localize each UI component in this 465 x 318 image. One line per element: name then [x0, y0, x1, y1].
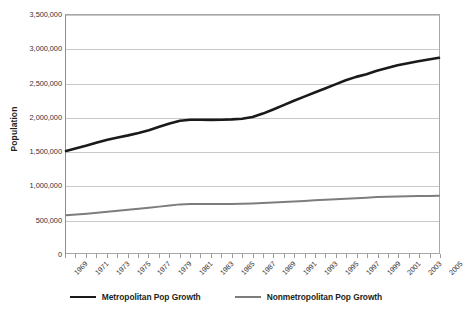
x-axis-tick: [138, 254, 139, 258]
x-axis-tick-label: 1987: [260, 259, 277, 276]
x-axis-tick: [263, 254, 264, 258]
x-axis-tick: [305, 254, 306, 258]
y-axis-tick-label: 3,500,000: [30, 10, 62, 19]
x-axis-tick: [65, 254, 66, 258]
x-axis-tick: [128, 254, 129, 258]
y-axis-tick-label: 500,000: [36, 215, 62, 224]
x-axis-tick-label: 2001: [405, 259, 422, 276]
x-axis-tick: [419, 254, 420, 258]
x-axis-tick-label: 1997: [364, 259, 381, 276]
x-axis-tick: [294, 254, 295, 258]
x-axis-tick-label: 2003: [426, 259, 443, 276]
x-axis-tick-labels: 1969197119731975197719791981198319851987…: [65, 258, 440, 288]
x-axis-tick: [107, 254, 108, 258]
x-axis-tick-label: 1971: [93, 259, 110, 276]
x-axis-tick: [357, 254, 358, 258]
x-axis-tick: [86, 254, 87, 258]
x-axis-tick: [221, 254, 222, 258]
series-lines: [66, 15, 439, 253]
x-axis-tick: [367, 254, 368, 258]
plot-inner: [66, 15, 439, 253]
x-axis-tick-label: 1993: [322, 259, 339, 276]
x-axis-tick: [211, 254, 212, 258]
x-axis-tick: [180, 254, 181, 258]
plot-area: [65, 14, 440, 254]
x-axis-tick: [336, 254, 337, 258]
legend-label-metropolitan: Metropolitan Pop Growth: [102, 292, 201, 302]
x-axis-tick: [409, 254, 410, 258]
x-axis-tick-label: 2005: [447, 259, 464, 276]
x-axis-tick-label: 1999: [385, 259, 402, 276]
nonmetro-line-swatch-icon: [235, 296, 261, 298]
x-axis-tick-label: 1991: [301, 259, 318, 276]
legend-item-metropolitan[interactable]: Metropolitan Pop Growth: [70, 292, 201, 302]
x-axis-tick: [346, 254, 347, 258]
x-axis-tick: [96, 254, 97, 258]
x-axis-tick: [232, 254, 233, 258]
metro-line-swatch-icon: [70, 296, 96, 298]
x-axis-tick-label: 1969: [72, 259, 89, 276]
y-axis-tick-label: 1,000,000: [30, 181, 62, 190]
x-axis-tick: [315, 254, 316, 258]
x-axis-tick: [398, 254, 399, 258]
x-axis-tick: [284, 254, 285, 258]
x-axis-tick-label: 1983: [218, 259, 235, 276]
x-axis-tick-label: 1977: [155, 259, 172, 276]
legend-item-nonmetropolitan[interactable]: Nonmetropolitan Pop Growth: [235, 292, 382, 302]
x-axis-tick-label: 1973: [114, 259, 131, 276]
x-axis-tick-label: 1979: [176, 259, 193, 276]
y-axis-tick-label: 0: [58, 250, 62, 259]
x-axis-tick-label: 1985: [239, 259, 256, 276]
x-axis-tick: [430, 254, 431, 258]
y-axis-title-label: Population: [9, 107, 19, 152]
x-axis-tick: [117, 254, 118, 258]
y-axis-tick-label: 1,500,000: [30, 147, 62, 156]
x-axis-tick: [190, 254, 191, 258]
x-axis-tick: [273, 254, 274, 258]
x-axis-tick: [388, 254, 389, 258]
x-axis-tick: [148, 254, 149, 258]
series-line-nonmetropolitan: [66, 196, 439, 216]
x-axis-tick: [325, 254, 326, 258]
x-axis-tick: [159, 254, 160, 258]
y-axis-tick-label: 2,000,000: [30, 112, 62, 121]
x-axis-tick: [440, 254, 441, 258]
x-axis-tick-label: 1975: [135, 259, 152, 276]
chart-legend: Metropolitan Pop Growth Nonmetropolitan …: [0, 292, 452, 302]
x-axis-tick-label: 1981: [197, 259, 214, 276]
x-axis-tick: [75, 254, 76, 258]
y-axis-tick-label: 2,500,000: [30, 78, 62, 87]
series-line-metropolitan: [66, 58, 439, 151]
x-axis-tick-label: 1995: [343, 259, 360, 276]
x-axis-tick-label: 1989: [280, 259, 297, 276]
y-axis-tick-labels: 0500,0001,000,0001,500,0002,000,0002,500…: [20, 14, 62, 254]
x-axis-tick: [242, 254, 243, 258]
legend-label-nonmetropolitan: Nonmetropolitan Pop Growth: [267, 292, 382, 302]
y-axis-tick-label: 3,000,000: [30, 44, 62, 53]
x-axis-tick: [200, 254, 201, 258]
x-axis-tick: [253, 254, 254, 258]
x-axis-tick: [378, 254, 379, 258]
x-axis-tick: [169, 254, 170, 258]
